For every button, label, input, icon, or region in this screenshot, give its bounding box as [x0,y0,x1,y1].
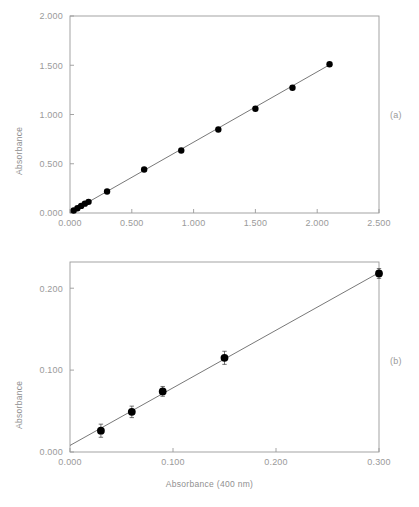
data-point [85,199,91,205]
x-tick-label: 0.300 [367,457,391,467]
data-point [289,85,295,91]
scatter-plot-b: 0.0000.1000.2000.3000.0000.1000.200 [0,254,419,507]
panel-letter-a: (a) [390,110,402,120]
scatter-plot-a: 0.0000.5001.0001.5002.0002.5000.0000.500… [0,0,419,254]
data-point [128,408,136,416]
y-tick-label: 0.000 [39,208,63,218]
x-tick-label: 0.100 [161,457,185,467]
y-axis-title-b: Absorbance [14,381,24,429]
data-point [215,126,221,132]
chart-panel-b: 0.0000.1000.2000.3000.0000.1000.200 Abso… [0,254,419,507]
y-tick-label: 0.500 [39,159,63,169]
chart-panel-a: 0.0000.5001.0001.5002.0002.5000.0000.500… [0,0,419,254]
data-point [252,106,258,112]
data-point [375,270,383,278]
x-tick-label: 0.000 [58,218,82,228]
x-tick-label: 1.000 [182,218,206,228]
data-point [141,166,147,172]
x-tick-label: 2.500 [367,218,391,228]
data-point [221,354,229,362]
y-tick-label: 0.200 [39,284,63,294]
data-point [326,61,332,67]
x-axis-title: Absorbance (400 nm) [0,479,419,489]
y-tick-label: 0.000 [39,447,63,457]
panel-letter-b: (b) [390,356,402,366]
data-point [104,188,110,194]
x-tick-label: 0.000 [58,457,82,467]
x-tick-label: 0.200 [264,457,288,467]
y-axis-title-a: Absorbance [14,127,24,175]
data-point [178,147,184,153]
y-tick-label: 0.100 [39,365,63,375]
y-tick-label: 2.000 [39,11,63,21]
y-tick-label: 1.000 [39,110,63,120]
x-tick-label: 2.000 [305,218,329,228]
y-tick-label: 1.500 [39,61,63,71]
data-point [97,427,105,435]
x-tick-label: 0.500 [120,218,144,228]
x-tick-label: 1.500 [244,218,268,228]
data-point [159,387,167,395]
plot-frame [70,16,379,213]
